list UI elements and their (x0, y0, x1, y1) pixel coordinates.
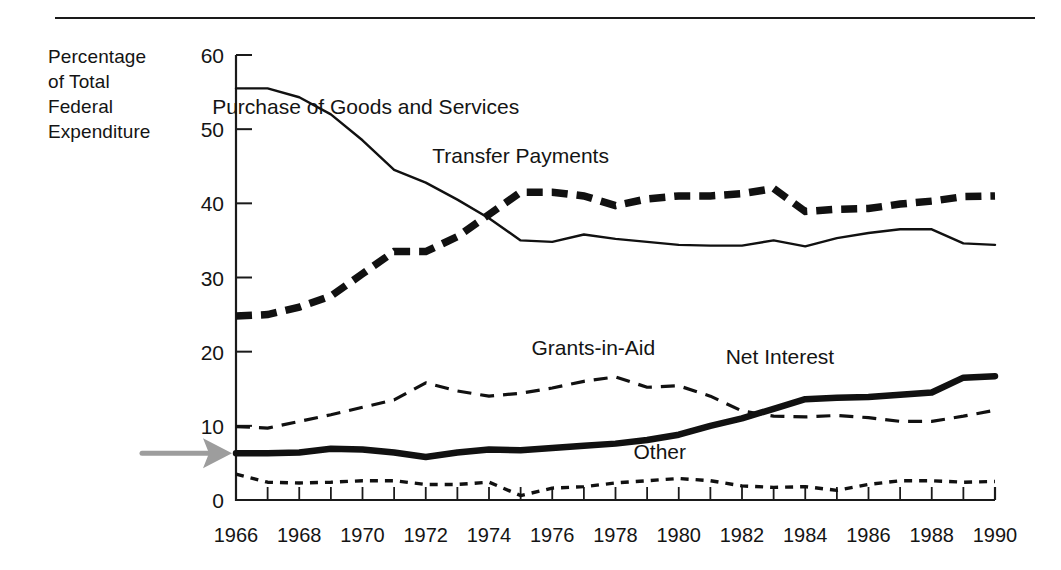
y-tick-label: 60 (201, 44, 224, 67)
x-tick-label: 1976 (530, 524, 575, 546)
y-tick-label: 0 (212, 489, 224, 512)
axis-lines (236, 55, 995, 500)
x-tick-label: 1982 (720, 524, 765, 546)
series-label-purchase-of-goods-and-services: Purchase of Goods and Services (212, 95, 519, 118)
x-tick-label: 1966 (214, 524, 259, 546)
x-tick-label: 1974 (467, 524, 512, 546)
y-tick-label: 20 (201, 341, 224, 364)
chart-figure: Percentage of Total Federal Expenditure … (0, 0, 1061, 570)
x-tick-label: 1980 (657, 524, 702, 546)
x-tick-label: 1978 (593, 524, 638, 546)
data-series-group (236, 88, 995, 495)
series-line-net-interest (236, 376, 995, 457)
x-tick-label: 1990 (973, 524, 1018, 546)
series-line-grants-in-aid (236, 377, 995, 428)
x-tick-label: 1968 (277, 524, 322, 546)
y-tick-label: 50 (201, 118, 224, 141)
y-tick-label: 40 (201, 192, 224, 215)
y-tick-label: 10 (201, 415, 224, 438)
x-tick-label: 1972 (404, 524, 449, 546)
series-label-grants-in-aid: Grants-in-Aid (532, 336, 656, 359)
x-tick-label: 1988 (910, 524, 955, 546)
series-label-transfer-payments: Transfer Payments (432, 144, 609, 167)
x-tick-label: 1970 (340, 524, 385, 546)
x-tick-label: 1986 (846, 524, 891, 546)
gray-arrow-icon (142, 438, 232, 468)
series-label-net-interest: Net Interest (726, 345, 835, 368)
y-tick-label: 30 (201, 267, 224, 290)
series-line-transfer-payments (236, 189, 995, 317)
chart-plot-area: 0102030405060 Purchase of Goods and Serv… (0, 0, 1061, 570)
x-axis-ticks (268, 487, 964, 500)
series-label-other: Other (634, 440, 687, 463)
x-tick-label: 1984 (783, 524, 828, 546)
series-label-group: Purchase of Goods and ServicesTransfer P… (212, 95, 834, 463)
x-axis-tick-labels: 1966196819701972197419761978198019821984… (214, 524, 1018, 546)
